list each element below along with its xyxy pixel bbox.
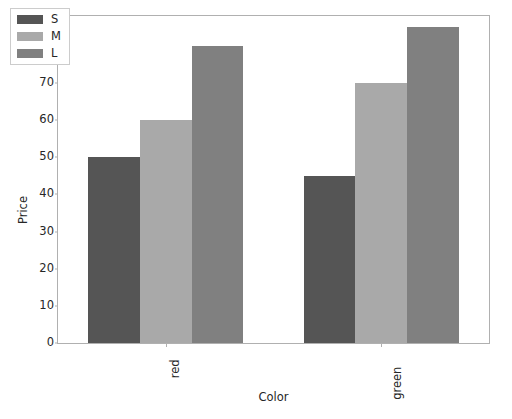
y-tick-mark — [55, 268, 59, 269]
legend-item: L — [17, 48, 61, 59]
x-tick-label: red — [169, 359, 181, 378]
x-tick-mark — [381, 343, 382, 347]
y-tick-mark — [55, 157, 59, 158]
bar-red-S — [88, 157, 140, 343]
bar-green-S — [304, 176, 356, 343]
y-tick-label: 70 — [39, 77, 54, 89]
plot-area: 01020304050607080redgreen — [58, 16, 489, 343]
chart-legend: S M L — [10, 8, 70, 65]
y-tick-label: 60 — [39, 114, 54, 126]
legend-label-l: L — [51, 48, 57, 60]
y-tick-label: 50 — [39, 151, 54, 163]
x-tick-mark — [166, 343, 167, 347]
y-tick-mark — [55, 231, 59, 232]
legend-item: S — [17, 14, 61, 25]
chart-figure: Price 01020304050607080redgreen Color S … — [0, 0, 512, 419]
y-tick-mark — [55, 194, 59, 195]
bar-red-M — [140, 120, 192, 343]
y-tick-mark — [55, 305, 59, 306]
legend-swatch-m — [17, 32, 43, 41]
bar-red-L — [192, 46, 244, 343]
y-axis-label: Price — [16, 195, 30, 223]
y-tick-label: 30 — [39, 226, 54, 238]
legend-item: M — [17, 31, 61, 42]
y-tick-label: 20 — [39, 263, 54, 275]
bar-green-M — [355, 83, 407, 343]
legend-label-s: S — [51, 14, 58, 26]
y-tick-mark — [55, 120, 59, 121]
legend-swatch-s — [17, 15, 43, 24]
bar-green-L — [407, 27, 459, 343]
y-tick-label: 0 — [47, 337, 54, 349]
y-tick-label: 10 — [39, 300, 54, 312]
y-tick-label: 40 — [39, 189, 54, 201]
legend-label-m: M — [51, 31, 61, 43]
plot-axes: 01020304050607080redgreen — [57, 15, 490, 344]
x-axis-label: Color — [57, 390, 490, 404]
legend-swatch-l — [17, 49, 43, 58]
y-tick-mark — [55, 82, 59, 83]
y-tick-mark — [55, 343, 59, 344]
